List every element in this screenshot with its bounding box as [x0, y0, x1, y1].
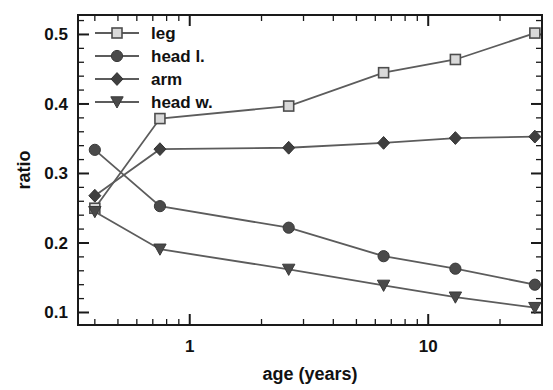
data-point-marker	[111, 73, 123, 86]
series-line	[95, 212, 535, 308]
data-point-marker	[112, 28, 122, 38]
x-axis-title: age (years)	[262, 364, 357, 384]
x-tick-label: 1	[185, 337, 194, 356]
data-point-marker	[283, 222, 294, 233]
y-axis-tick-labels: 0.10.20.30.40.5	[44, 25, 68, 322]
legend-entry-head-l-: head l.	[95, 47, 205, 66]
data-series	[89, 207, 541, 314]
chart-figure: 0.10.20.30.40.5 110 leghead l.armhead w.…	[0, 0, 553, 390]
data-point-marker	[378, 251, 389, 262]
x-tick-label: 10	[419, 337, 438, 356]
data-point-marker	[284, 101, 294, 111]
y-axis-ticks	[78, 21, 542, 313]
legend-entry-leg: leg	[95, 24, 176, 43]
data-point-marker	[450, 263, 461, 274]
chart-plot-area: 0.10.20.30.40.5 110 leghead l.armhead w.…	[0, 0, 553, 390]
data-series	[89, 130, 541, 202]
data-point-marker	[89, 144, 100, 155]
data-point-marker	[378, 136, 390, 149]
y-axis-title: ratio	[14, 150, 34, 189]
data-point-marker	[450, 54, 460, 64]
data-point-marker	[111, 50, 122, 61]
data-point-marker	[155, 114, 165, 124]
legend-label: arm	[151, 70, 182, 89]
data-point-marker	[154, 201, 165, 212]
y-tick-label: 0.3	[44, 164, 68, 183]
legend-label: head l.	[151, 47, 205, 66]
legend-entry-head-w-: head w.	[95, 93, 213, 112]
legend-label: head w.	[151, 93, 213, 112]
data-series	[89, 144, 540, 290]
data-point-marker	[89, 189, 101, 202]
y-tick-label: 0.2	[44, 234, 68, 253]
data-point-marker	[379, 68, 389, 78]
series-line	[95, 150, 535, 285]
chart-legend: leghead l.armhead w.	[95, 24, 213, 112]
y-tick-label: 0.4	[44, 95, 68, 114]
data-point-marker	[449, 132, 461, 145]
plot-frame	[78, 15, 542, 325]
data-point-marker	[154, 143, 166, 156]
legend-label: leg	[151, 24, 176, 43]
data-point-marker	[530, 28, 540, 38]
data-point-marker	[283, 141, 295, 154]
legend-entry-arm: arm	[95, 70, 182, 89]
y-tick-label: 0.1	[44, 303, 68, 322]
y-tick-label: 0.5	[44, 25, 68, 44]
data-point-marker	[529, 279, 540, 290]
x-axis-tick-labels: 110	[185, 337, 438, 356]
